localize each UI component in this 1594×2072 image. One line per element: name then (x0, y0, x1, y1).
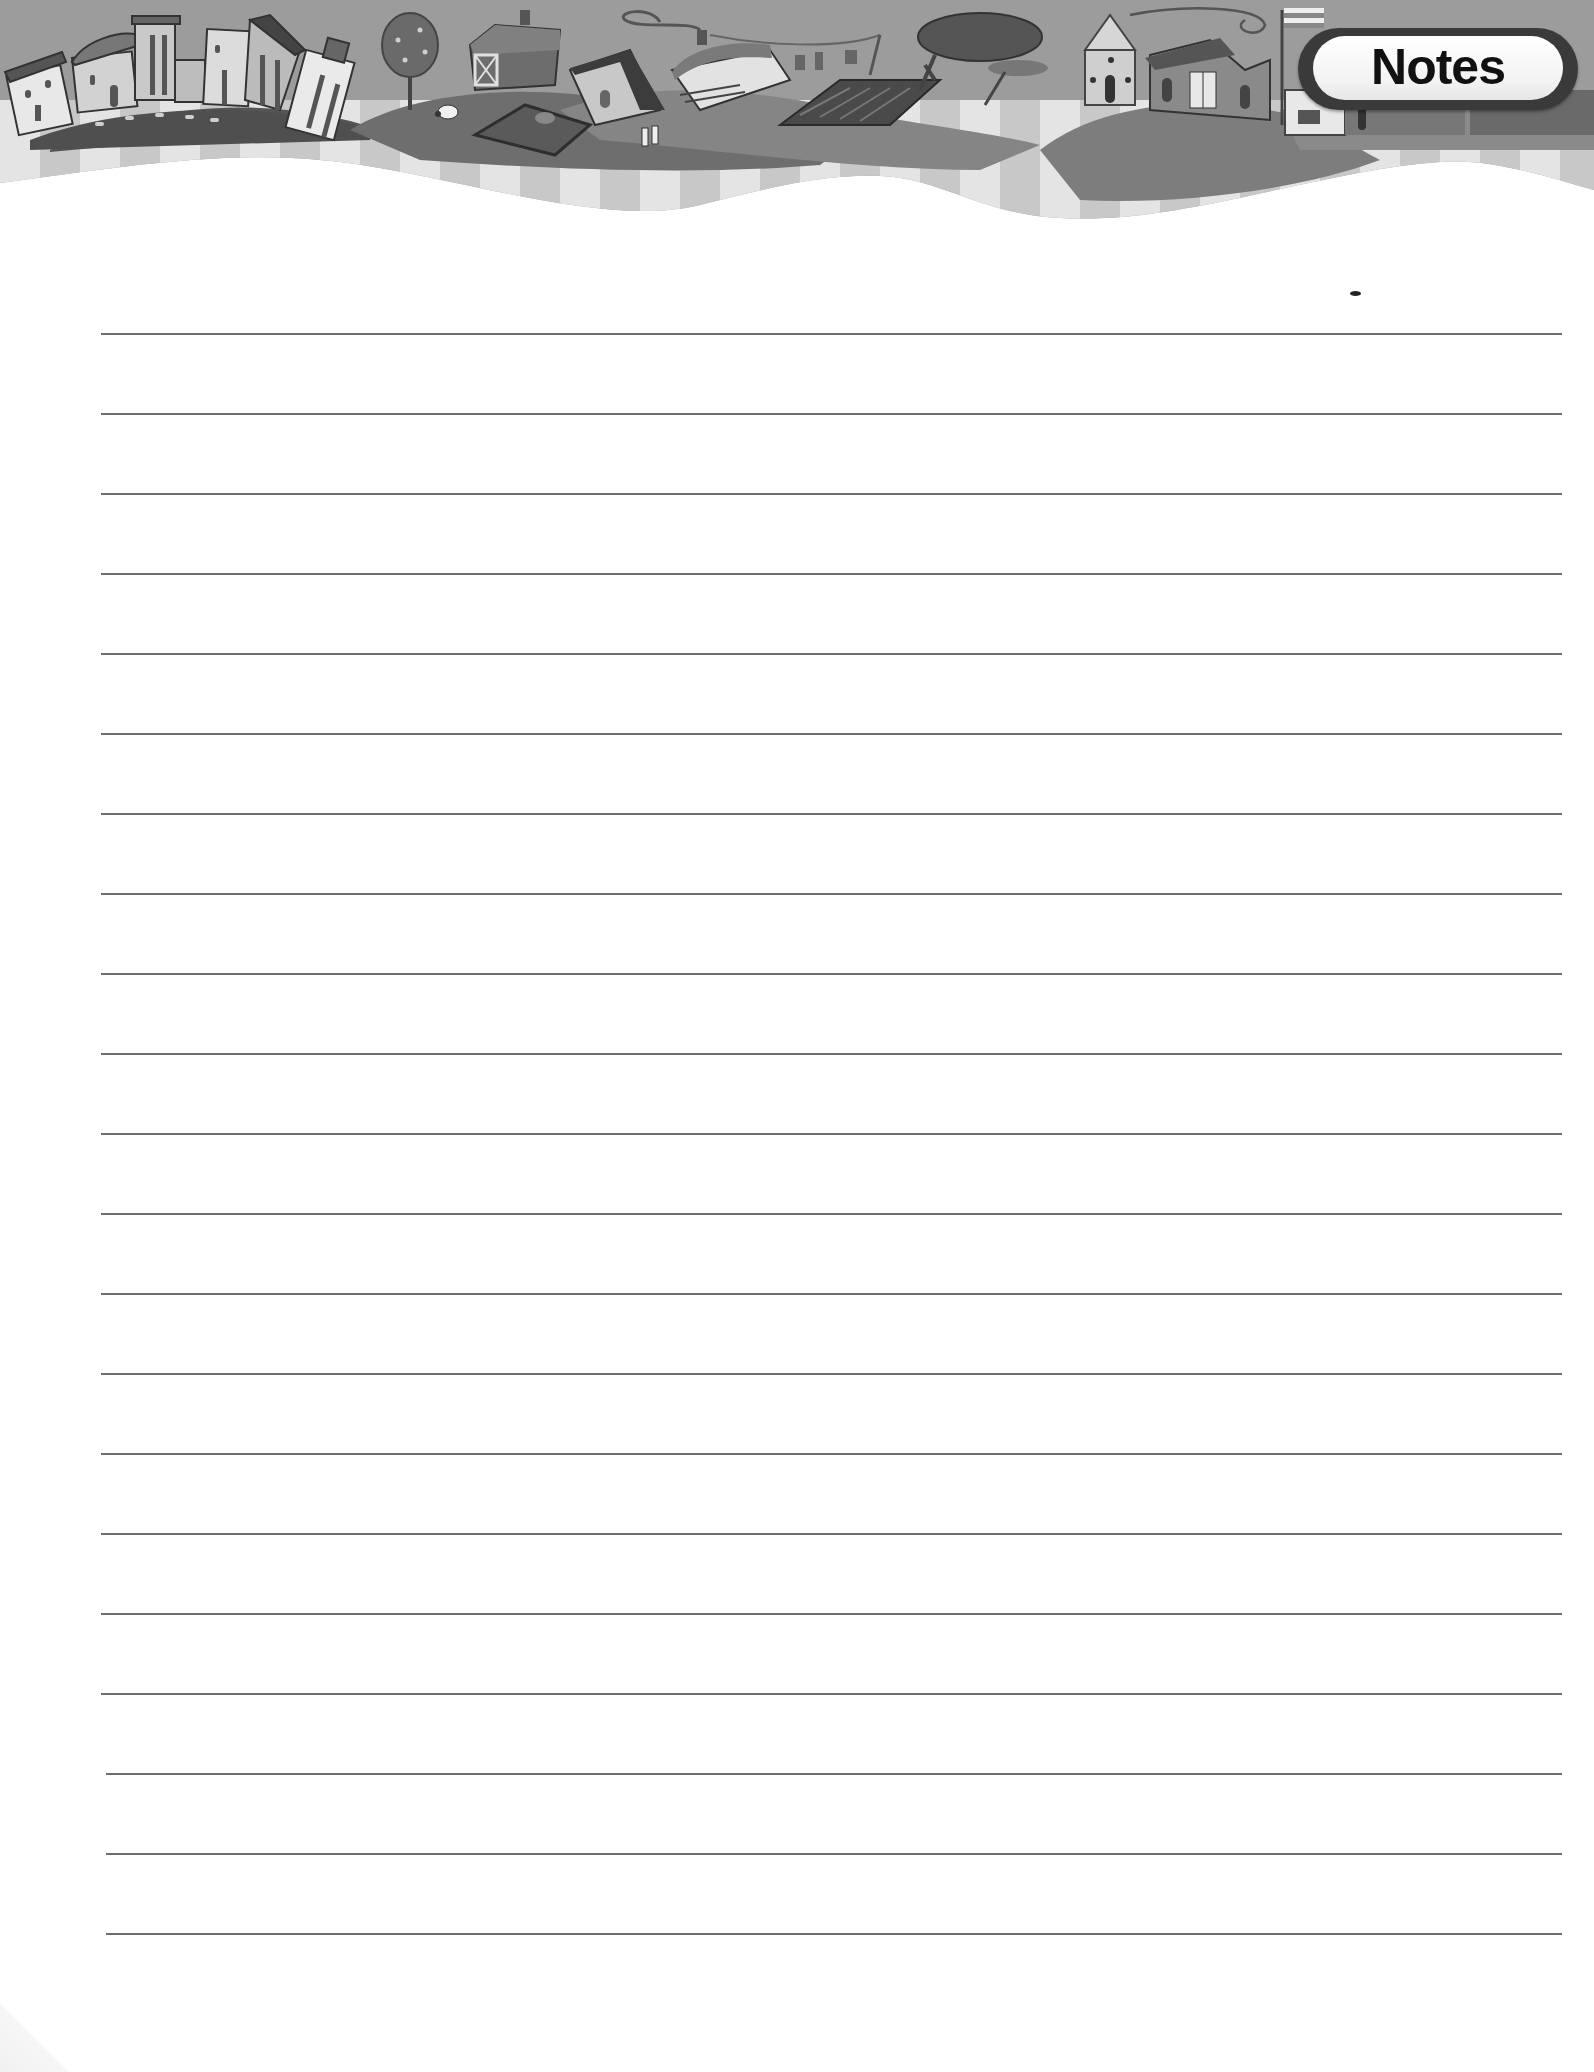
writing-line (101, 1533, 1562, 1535)
ruled-writing-area (0, 0, 1594, 2072)
ink-speck (1350, 291, 1361, 296)
writing-line (101, 1613, 1562, 1615)
writing-line (106, 1853, 1562, 1855)
writing-line (101, 1133, 1562, 1135)
writing-line (106, 1933, 1562, 1935)
writing-line (101, 653, 1562, 655)
page-corner (0, 2002, 70, 2072)
writing-line (101, 493, 1562, 495)
writing-line (101, 973, 1562, 975)
writing-line (101, 893, 1562, 895)
writing-line (101, 1453, 1562, 1455)
writing-line (106, 1773, 1562, 1775)
writing-line (101, 573, 1562, 575)
writing-line (101, 1293, 1562, 1295)
writing-line (101, 813, 1562, 815)
writing-line (101, 1693, 1562, 1695)
writing-line (101, 1373, 1562, 1375)
writing-line (101, 413, 1562, 415)
notes-page: Notes (0, 0, 1594, 2072)
writing-line (101, 1213, 1562, 1215)
writing-line (101, 333, 1562, 335)
writing-line (101, 1053, 1562, 1055)
writing-line (101, 733, 1562, 735)
